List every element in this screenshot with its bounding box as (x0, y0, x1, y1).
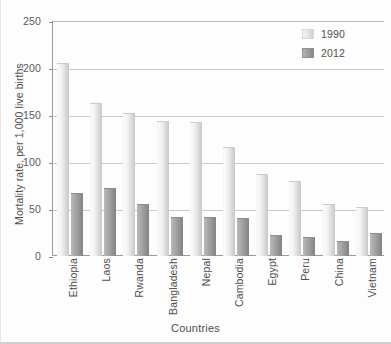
bar-laos-2012 (104, 188, 116, 256)
legend-label-2012: 2012 (321, 47, 345, 59)
bar-bangladesh-2012 (171, 217, 183, 256)
x-tick-label-egypt: Egypt (266, 258, 278, 286)
bar-group (55, 21, 88, 256)
x-axis-tick-labels: EthiopiaLaosRwandaBangladeshNepalCambodi… (52, 258, 384, 320)
legend-item-2012: 2012 (302, 45, 380, 61)
bar-laos-1990 (90, 103, 102, 256)
bar-group (155, 21, 188, 256)
legend-swatch-2012-icon (302, 48, 314, 58)
x-tick-label-rwanda: Rwanda (133, 258, 145, 297)
x-tick-label-bangladesh: Bangladesh (167, 258, 179, 315)
bar-peru-1990 (289, 181, 301, 256)
legend-swatch-1990-icon (302, 29, 314, 39)
chart-figure: Mortality rate, per 1,000 live births 05… (0, 0, 391, 344)
x-tick-label-peru: Peru (299, 258, 311, 281)
bar-vietnam-1990 (356, 207, 368, 256)
bar-china-2012 (337, 241, 349, 256)
bar-egypt-2012 (270, 235, 282, 256)
bar-vietnam-2012 (370, 233, 382, 256)
x-tick-label-cambodia: Cambodia (233, 258, 245, 307)
chart-legend: 1990 2012 (302, 26, 380, 64)
legend-item-1990: 1990 (302, 26, 380, 42)
bar-ethiopia-2012 (71, 193, 83, 256)
y-tick-label: 50 (1, 204, 41, 215)
y-tick-label: 0 (1, 251, 41, 262)
bar-cambodia-2012 (237, 218, 249, 256)
bar-nepal-2012 (204, 217, 216, 256)
x-tick-label-laos: Laos (100, 258, 112, 281)
bar-nepal-1990 (190, 122, 202, 256)
bar-rwanda-1990 (123, 113, 135, 256)
bar-rwanda-2012 (137, 204, 149, 256)
bar-group (121, 21, 154, 256)
scan-edge-left (0, 0, 1, 344)
bar-bangladesh-1990 (157, 121, 169, 256)
y-tick-label: 100 (1, 157, 41, 168)
bar-cambodia-1990 (223, 147, 235, 256)
bar-group (88, 21, 121, 256)
legend-label-1990: 1990 (321, 28, 345, 40)
x-tick-label-nepal: Nepal (200, 258, 212, 286)
bar-china-1990 (323, 204, 335, 256)
bar-ethiopia-1990 (57, 63, 69, 256)
bar-peru-2012 (303, 237, 315, 256)
x-tick-label-ethiopia: Ethiopia (67, 258, 79, 297)
x-tick-label-china: China (333, 258, 345, 286)
bar-egypt-1990 (256, 174, 268, 256)
x-tick-label-vietnam: Vietnam (366, 258, 378, 297)
x-axis-title: Countries (0, 322, 391, 334)
y-tick-label: 150 (1, 110, 41, 121)
bar-group (188, 21, 221, 256)
bar-group (254, 21, 287, 256)
bar-group (221, 21, 254, 256)
y-tick-label: 250 (1, 16, 41, 27)
y-tick-label: 200 (1, 63, 41, 74)
